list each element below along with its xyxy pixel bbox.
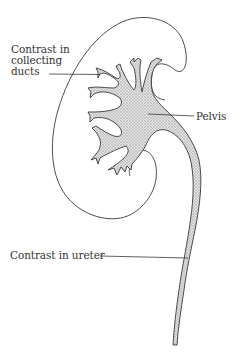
collecting-system-contrast: [88, 58, 201, 345]
label-contrast-in-collecting-ducts: Contrast in collecting ducts: [11, 44, 70, 77]
kidney-diagram: Contrast in collecting ducts Pelvis Cont…: [0, 0, 238, 352]
label-line-3: ducts: [11, 66, 70, 77]
label-pelvis: Pelvis: [196, 111, 226, 122]
label-contrast-in-ureter: Contrast in ureter: [10, 250, 105, 261]
leader-line-ureter: [100, 256, 188, 258]
